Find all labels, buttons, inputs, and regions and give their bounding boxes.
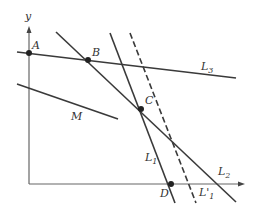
y-axis-label: y [24,10,32,23]
point-D [168,181,174,187]
label-L2: L2 [217,165,230,180]
point-B [85,57,91,63]
y-axis-arrow-icon [27,26,32,33]
line-M [17,84,118,119]
label-L1-prime: L'1 [198,186,214,201]
label-A: A [31,39,40,52]
line-L1 [110,33,175,203]
label-L3: L3 [200,60,213,75]
label-M: M [70,110,83,123]
geometry-diagram: y A B C D M L3 L1 L2 L'1 [0,0,254,208]
label-B: B [91,46,100,59]
x-axis-arrow-icon [238,182,245,187]
line-L1-prime [130,33,196,203]
label-C: C [145,94,154,107]
point-C [138,106,144,112]
line-L2 [56,32,236,202]
label-D: D [159,187,169,200]
